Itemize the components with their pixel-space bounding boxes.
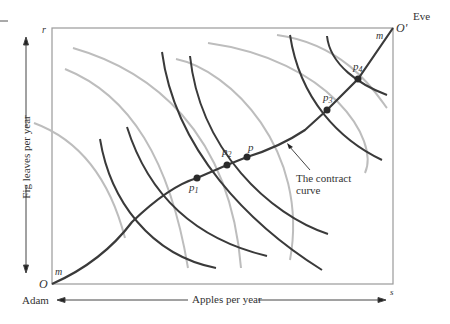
point-label-p2: p2 (222, 145, 232, 159)
point-label-p: p (248, 141, 254, 153)
adam-indifference-curves (100, 35, 387, 270)
curve-start-label-m: m (55, 266, 62, 277)
y-axis-label: Fig leaves per year (20, 115, 32, 198)
origin-label-adam: O (39, 277, 48, 292)
corner-label-s: s (390, 287, 394, 297)
adam-curve-3 (162, 52, 322, 270)
arrow-left-icon (57, 298, 65, 303)
arrow-right-icon (378, 298, 386, 303)
adam-curve-5 (290, 35, 382, 160)
point-p (244, 154, 251, 161)
adam-label: Adam (22, 294, 49, 306)
edgeworth-box-diagram (0, 0, 450, 324)
annotation-arrowhead-icon (287, 143, 293, 149)
point-label-p1: p1 (189, 181, 199, 195)
corner-label-r: r (42, 24, 46, 35)
arrow-up-icon (24, 37, 29, 45)
point-p4 (355, 76, 362, 83)
adam-curve-4 (190, 56, 328, 234)
eve-indifference-curves (34, 35, 387, 268)
eve-curve-4 (176, 59, 293, 260)
contract-curve-annotation: The contract curve (296, 172, 351, 196)
annotation-line-2: curve (296, 184, 351, 196)
point-p2 (224, 162, 231, 169)
point-label-p3: p3 (323, 91, 333, 105)
x-axis-label: Apples per year (192, 293, 262, 305)
adam-curve-1 (100, 139, 216, 268)
point-label-p4: p4 (353, 60, 363, 74)
eve-label: Eve (413, 10, 430, 22)
eve-curve-2 (65, 69, 188, 268)
annotation-line-1: The contract (296, 172, 351, 184)
point-p3 (324, 107, 331, 114)
annotation-pointer (289, 146, 310, 170)
origin-label-eve: O' (396, 21, 407, 36)
arrow-down-icon (24, 265, 29, 273)
eve-curve-3 (73, 48, 241, 268)
curve-end-label-m: m (376, 30, 383, 41)
